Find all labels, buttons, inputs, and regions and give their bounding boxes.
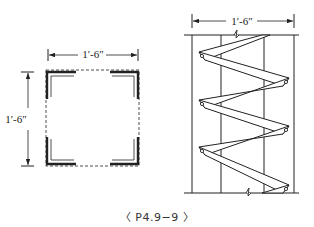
lacing-elevation xyxy=(184,14,299,196)
cross-section xyxy=(21,49,139,166)
side-dimension-label: 1′-6″ xyxy=(5,113,27,125)
top-dimension-label: 1′-6″ xyxy=(82,48,104,60)
diagram-canvas: 1′-6″ 1′-6″ xyxy=(0,0,314,227)
figure-caption: 〈 P4.9−9 〉 xyxy=(0,208,314,224)
lacing-dimension-label: 1′-6″ xyxy=(231,15,253,27)
